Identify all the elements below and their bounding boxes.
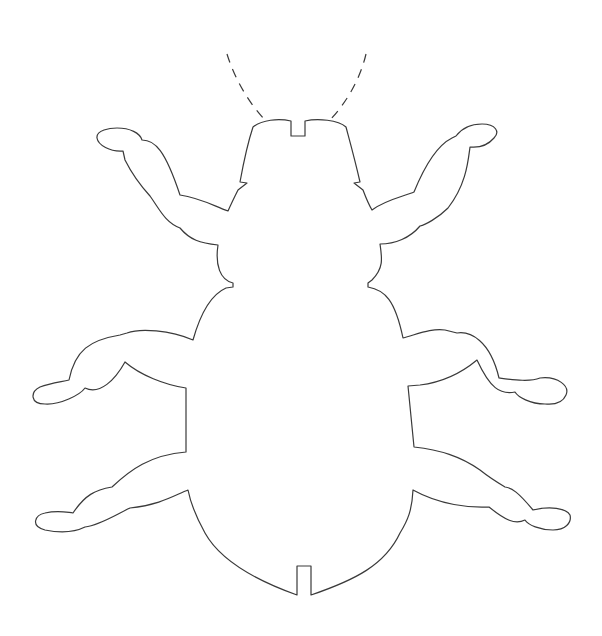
- left-antenna: [227, 54, 267, 122]
- beetle-drawing: [0, 0, 602, 636]
- right-antenna: [328, 54, 366, 122]
- beetle-body-outline: [33, 120, 570, 595]
- beetle-svg: [0, 0, 602, 636]
